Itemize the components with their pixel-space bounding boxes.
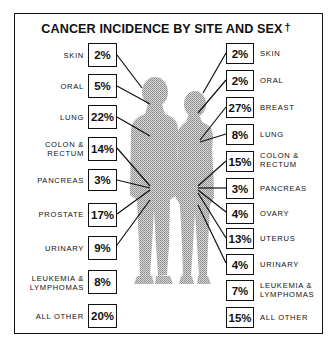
male-value-colon-rectum: 14%: [88, 137, 117, 161]
female-label-oral: ORAL: [260, 76, 320, 85]
female-value-skin: 2%: [226, 43, 254, 64]
female-value-all-other: 15%: [226, 307, 254, 328]
label-line: COLON &: [260, 151, 320, 160]
female-label-skin: SKIN: [260, 49, 320, 58]
male-label-oral: ORAL: [20, 82, 84, 91]
female-value-pancreas: 3%: [226, 178, 254, 199]
male-label-pancreas: PANCREAS: [20, 176, 84, 185]
male-value-lung: 22%: [88, 105, 117, 129]
female-value-leukemia-lymphomas: 7%: [226, 280, 254, 301]
female-label-breast: BREAST: [260, 103, 320, 112]
female-value-urinary: 4%: [226, 254, 254, 275]
female-value-lung: 8%: [226, 124, 254, 145]
male-label-urinary: URINARY: [20, 244, 84, 253]
label-line: LYMPHOMAS: [260, 290, 322, 299]
female-label-urinary: URINARY: [260, 260, 320, 269]
female-label-colon-rectum: COLON &RECTUM: [260, 151, 320, 169]
male-label-lung: LUNG: [20, 113, 84, 122]
male-label-leukemia-lymphomas: LEUKEMIA &LYMPHOMAS: [16, 274, 84, 292]
female-value-breast: 27%: [226, 97, 254, 118]
female-value-ovary: 4%: [226, 203, 254, 224]
female-value-uterus: 13%: [226, 228, 254, 249]
female-value-colon-rectum: 15%: [226, 151, 254, 172]
male-value-urinary: 9%: [88, 236, 117, 260]
female-value-oral: 2%: [226, 70, 254, 91]
male-value-skin: 2%: [88, 43, 117, 67]
male-label-skin: SKIN: [20, 51, 84, 60]
female-label-all-other: ALL OTHER: [260, 313, 320, 322]
female-label-leukemia-lymphomas: LEUKEMIA &LYMPHOMAS: [260, 281, 322, 299]
male-label-colon-rectum: COLON &RECTUM: [20, 140, 84, 158]
female-label-lung: LUNG: [260, 130, 320, 139]
female-label-ovary: OVARY: [260, 209, 320, 218]
male-value-oral: 5%: [88, 74, 117, 98]
label-line: LYMPHOMAS: [16, 283, 84, 292]
male-value-pancreas: 3%: [88, 169, 117, 191]
female-label-pancreas: PANCREAS: [260, 184, 320, 193]
male-silhouette: [130, 77, 178, 284]
label-line: COLON &: [20, 140, 84, 149]
male-label-all-other: ALL OTHER: [20, 312, 84, 321]
male-value-prostate: 17%: [88, 203, 117, 227]
male-value-leukemia-lymphomas: 8%: [88, 270, 117, 294]
male-value-all-other: 20%: [88, 304, 117, 328]
label-line: RECTUM: [260, 160, 320, 169]
label-line: LEUKEMIA &: [260, 281, 322, 290]
male-label-prostate: PROSTATE: [20, 210, 84, 219]
female-label-uterus: UTERUS: [260, 234, 320, 243]
label-line: RECTUM: [20, 149, 84, 158]
label-line: LEUKEMIA &: [16, 274, 84, 283]
